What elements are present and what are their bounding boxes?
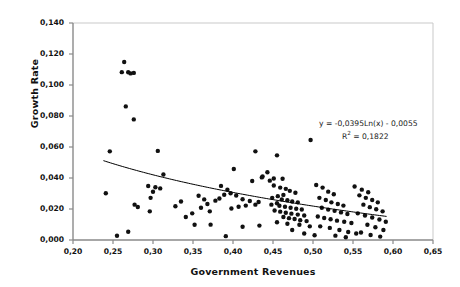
data-point <box>361 202 365 206</box>
data-point <box>277 204 281 208</box>
data-point <box>380 209 384 213</box>
data-point <box>115 234 119 238</box>
data-point <box>365 223 369 227</box>
data-point <box>289 211 293 215</box>
data-point <box>199 206 203 210</box>
data-point <box>335 218 339 222</box>
y-tick-label: 0,140 <box>20 18 64 27</box>
data-point <box>326 189 330 193</box>
data-point <box>308 138 312 142</box>
data-point <box>244 203 248 207</box>
y-tick-label: 0,120 <box>20 49 64 58</box>
data-point <box>196 194 200 198</box>
data-point <box>349 221 353 225</box>
x-tick-label: 0,50 <box>293 247 333 256</box>
data-point <box>356 211 360 215</box>
data-point <box>250 179 254 183</box>
data-point <box>276 194 280 198</box>
data-point <box>146 184 150 188</box>
x-axis-label: Government Revenues <box>73 266 433 277</box>
data-point <box>281 215 285 219</box>
x-tick-label: 0,20 <box>53 247 93 256</box>
data-point <box>268 178 272 182</box>
data-point <box>161 172 165 176</box>
data-point <box>260 175 264 179</box>
data-point <box>377 217 381 221</box>
data-point <box>253 202 257 206</box>
data-point <box>213 198 217 202</box>
data-point <box>345 212 349 216</box>
data-point <box>293 191 297 195</box>
data-point <box>240 197 244 201</box>
data-point <box>302 231 306 235</box>
data-point <box>333 233 337 237</box>
data-point <box>322 216 326 220</box>
data-point <box>208 222 212 226</box>
data-point <box>229 206 233 210</box>
data-point <box>341 203 345 207</box>
data-point <box>257 223 261 227</box>
data-point <box>284 211 288 215</box>
data-point <box>384 220 388 224</box>
data-point <box>272 183 276 187</box>
data-point <box>368 233 372 237</box>
data-point <box>290 228 294 232</box>
data-point <box>283 204 287 208</box>
data-point <box>317 196 321 200</box>
data-point <box>265 170 269 174</box>
data-point <box>287 216 291 220</box>
data-point <box>217 196 221 200</box>
data-point <box>132 117 136 121</box>
data-point <box>370 215 374 219</box>
data-point <box>314 183 318 187</box>
data-point <box>126 230 130 234</box>
data-point <box>202 197 206 201</box>
data-point <box>308 224 312 228</box>
data-point <box>376 200 380 204</box>
data-point <box>192 223 196 227</box>
data-point <box>124 104 128 108</box>
data-point <box>156 149 160 153</box>
x-tick-label: 0,35 <box>173 247 213 256</box>
data-point <box>312 233 316 237</box>
data-point <box>337 228 341 232</box>
data-point <box>158 186 162 190</box>
data-point <box>278 209 282 213</box>
x-tick-label: 0,25 <box>93 247 133 256</box>
data-point <box>128 71 132 75</box>
regression-equation: y = -0,0395Ln(x) - 0,0055 <box>319 119 418 128</box>
data-point <box>205 202 209 206</box>
data-point <box>342 220 346 224</box>
data-point <box>240 225 244 229</box>
data-point <box>280 177 284 181</box>
data-point <box>360 187 364 191</box>
data-point <box>285 222 289 226</box>
data-point <box>297 223 301 227</box>
data-point <box>288 206 292 210</box>
data-point <box>120 70 124 74</box>
data-points <box>104 60 388 240</box>
data-point <box>278 185 282 189</box>
data-point <box>292 217 296 221</box>
data-point <box>190 211 194 215</box>
chart-figure: Growth Rate Government Revenues 0,0000,0… <box>0 0 460 287</box>
data-point <box>281 193 285 197</box>
data-point <box>275 153 279 157</box>
data-point <box>232 167 236 171</box>
data-point <box>332 192 336 196</box>
data-point <box>179 199 183 203</box>
data-point <box>324 198 328 202</box>
trendline <box>103 161 386 217</box>
x-tick-label: 0,65 <box>413 247 453 256</box>
data-point <box>368 205 372 209</box>
data-point <box>236 204 240 208</box>
data-point <box>208 209 212 213</box>
data-point <box>269 202 273 206</box>
y-tick-label: 0,040 <box>20 173 64 182</box>
data-point <box>346 230 350 234</box>
data-point <box>234 193 238 197</box>
data-point <box>151 190 155 194</box>
data-point <box>248 199 252 203</box>
data-point <box>378 234 382 238</box>
data-point <box>108 149 112 153</box>
